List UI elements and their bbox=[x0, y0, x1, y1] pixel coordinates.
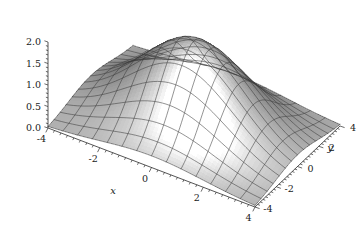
x-axis-minor-tick bbox=[53, 130, 54, 132]
x-axis-minor-tick bbox=[118, 155, 119, 157]
y-axis-tick bbox=[340, 126, 345, 128]
y-axis-minor-tick bbox=[258, 204, 260, 205]
x-axis-minor-tick bbox=[92, 145, 93, 147]
y-axis-tick bbox=[255, 207, 260, 209]
z-axis-tick bbox=[44, 84, 48, 85]
x-axis-minor-tick bbox=[234, 200, 235, 202]
x-axis-tick-label: 2 bbox=[194, 192, 200, 203]
y-axis-minor-tick bbox=[290, 174, 292, 175]
z-axis-tick-label: 0.0 bbox=[26, 122, 41, 133]
x-axis-minor-tick bbox=[170, 175, 171, 177]
x-axis-minor-tick bbox=[196, 185, 197, 187]
x-axis-minor-tick bbox=[137, 163, 138, 165]
x-axis-minor-tick bbox=[163, 172, 164, 174]
x-axis-minor-tick bbox=[86, 143, 87, 145]
x-axis-tick bbox=[98, 148, 100, 152]
y-axis-minor-tick bbox=[321, 144, 323, 145]
y-axis-minor-tick bbox=[271, 192, 273, 193]
x-axis-minor-tick bbox=[241, 202, 242, 204]
x-axis-tick bbox=[46, 128, 48, 132]
z-axis-tick bbox=[44, 127, 48, 128]
z-axis-tick bbox=[44, 41, 48, 42]
y-axis-minor-tick bbox=[324, 141, 326, 142]
x-axis-title: x bbox=[110, 185, 116, 196]
y-axis-minor-tick bbox=[266, 197, 268, 198]
x-axis-tick bbox=[201, 187, 203, 191]
y-axis-minor-tick bbox=[268, 194, 270, 195]
z-axis-tick bbox=[44, 105, 48, 106]
y-axis-minor-tick bbox=[260, 202, 262, 203]
y-axis-minor-tick bbox=[284, 179, 286, 180]
x-axis-minor-tick bbox=[105, 150, 106, 152]
y-axis-minor-tick bbox=[274, 189, 276, 190]
x-axis-minor-tick bbox=[79, 140, 80, 142]
x-axis-tick-label: -2 bbox=[89, 153, 98, 164]
z-axis-tick-label: 0.5 bbox=[26, 101, 41, 112]
y-axis-tick-label: 4 bbox=[350, 122, 356, 133]
y-axis-minor-tick bbox=[305, 159, 307, 160]
x-axis-minor-tick bbox=[73, 138, 74, 140]
z-axis-tick-label: 1.0 bbox=[26, 79, 41, 90]
x-axis-tick bbox=[253, 207, 255, 211]
y-axis-minor-tick bbox=[308, 156, 310, 157]
surface-mesh bbox=[48, 36, 340, 205]
y-axis-minor-tick bbox=[263, 199, 265, 200]
y-axis-minor-tick bbox=[329, 136, 331, 137]
z-axis-tick-label: 2.0 bbox=[26, 36, 41, 47]
x-axis-minor-tick bbox=[131, 160, 132, 162]
y-axis-minor-tick bbox=[282, 182, 284, 183]
y-axis-tick-label: 0 bbox=[307, 163, 313, 174]
y-axis-minor-tick bbox=[303, 161, 305, 162]
x-axis-minor-tick bbox=[157, 170, 158, 172]
y-axis-tick-label: -4 bbox=[263, 203, 272, 214]
surface-plot-figure: -4-2024x-4-2024y0.00.51.01.52.0 bbox=[0, 0, 362, 237]
x-axis-minor-tick bbox=[222, 195, 223, 197]
x-axis-minor-tick bbox=[144, 165, 145, 167]
y-axis-minor-tick bbox=[313, 151, 315, 152]
y-axis-minor-tick bbox=[295, 169, 297, 170]
y-axis-minor-tick bbox=[279, 184, 281, 185]
z-axis-tick bbox=[44, 62, 48, 63]
y-axis-tick-label: -2 bbox=[285, 183, 294, 194]
y-axis-minor-tick bbox=[337, 129, 339, 130]
plot-canvas: -4-2024x-4-2024y0.00.51.01.52.0 bbox=[0, 0, 362, 237]
x-axis-minor-tick bbox=[228, 197, 229, 199]
y-axis-minor-tick bbox=[287, 177, 289, 178]
z-axis-tick-label: 1.5 bbox=[26, 58, 41, 69]
y-axis-minor-tick bbox=[335, 131, 337, 132]
x-axis-tick-label: 4 bbox=[245, 212, 251, 223]
y-axis-minor-tick bbox=[332, 134, 334, 135]
x-axis-tick-label: 0 bbox=[142, 173, 148, 184]
y-axis-minor-tick bbox=[300, 164, 302, 165]
x-axis-minor-tick bbox=[189, 182, 190, 184]
x-axis-minor-tick bbox=[209, 190, 210, 192]
y-axis-minor-tick bbox=[292, 172, 294, 173]
x-axis-minor-tick bbox=[247, 205, 248, 207]
y-axis-minor-tick bbox=[311, 154, 313, 155]
x-axis-tick bbox=[149, 168, 151, 172]
y-axis-tick bbox=[319, 146, 324, 148]
y-axis-title: y bbox=[326, 142, 333, 153]
x-axis-minor-tick bbox=[66, 135, 67, 137]
y-axis-minor-tick bbox=[327, 139, 329, 140]
x-axis-minor-tick bbox=[112, 153, 113, 155]
x-axis-tick-label: -4 bbox=[37, 133, 46, 144]
y-axis-minor-tick bbox=[316, 149, 318, 150]
x-axis-minor-tick bbox=[183, 180, 184, 182]
y-axis-tick bbox=[276, 187, 281, 189]
x-axis-minor-tick bbox=[125, 158, 126, 160]
x-axis-minor-tick bbox=[215, 192, 216, 194]
x-axis-minor-tick bbox=[60, 133, 61, 135]
x-axis-minor-tick bbox=[176, 177, 177, 179]
y-axis-tick bbox=[298, 167, 303, 169]
